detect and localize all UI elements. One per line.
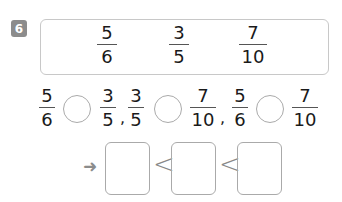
problem-number-badge: 6 bbox=[11, 20, 27, 37]
comparison-left-fraction: 3 5 bbox=[128, 86, 144, 129]
fraction-bar bbox=[169, 44, 189, 45]
denominator: 5 bbox=[130, 110, 141, 129]
given-fraction: 3 5 bbox=[169, 23, 189, 66]
comparison-left-fraction: 5 6 bbox=[39, 86, 55, 129]
numerator: 5 bbox=[234, 86, 245, 105]
numerator: 3 bbox=[173, 23, 184, 42]
given-fraction: 7 10 bbox=[239, 23, 267, 66]
numerator: 5 bbox=[41, 86, 52, 105]
order-answer-box-3[interactable] bbox=[237, 142, 282, 195]
given-fraction: 5 6 bbox=[97, 23, 117, 66]
denominator: 5 bbox=[173, 47, 184, 66]
separator-comma: , bbox=[120, 110, 125, 126]
numerator: 7 bbox=[197, 86, 208, 105]
denominator: 6 bbox=[41, 110, 52, 129]
numerator: 5 bbox=[101, 23, 112, 42]
order-answer-box-2[interactable] bbox=[171, 142, 216, 195]
fraction-bar bbox=[97, 44, 117, 45]
denominator: 10 bbox=[192, 110, 215, 129]
numerator: 7 bbox=[299, 86, 310, 105]
numerator: 7 bbox=[247, 23, 258, 42]
fraction-bar bbox=[239, 44, 267, 45]
fraction-bar bbox=[128, 107, 144, 108]
comparison-answer-circle[interactable] bbox=[63, 95, 91, 123]
separator-comma: , bbox=[220, 110, 225, 126]
denominator: 10 bbox=[242, 47, 265, 66]
denominator: 10 bbox=[294, 110, 317, 129]
numerator: 3 bbox=[130, 86, 141, 105]
denominator: 5 bbox=[102, 110, 113, 129]
comparison-left-fraction: 5 6 bbox=[232, 86, 248, 129]
fraction-bar bbox=[100, 107, 116, 108]
fraction-bar bbox=[292, 107, 318, 108]
fraction-bar bbox=[39, 107, 55, 108]
fraction-bar bbox=[232, 107, 248, 108]
comparison-right-fraction: 3 5 bbox=[100, 86, 116, 129]
denominator: 6 bbox=[234, 110, 245, 129]
numerator: 3 bbox=[102, 86, 113, 105]
comparison-right-fraction: 7 10 bbox=[190, 86, 216, 129]
order-answer-box-1[interactable] bbox=[105, 142, 150, 195]
comparison-answer-circle[interactable] bbox=[154, 95, 182, 123]
comparison-answer-circle[interactable] bbox=[256, 95, 284, 123]
comparison-right-fraction: 7 10 bbox=[292, 86, 318, 129]
right-arrow-icon: ➜ bbox=[83, 158, 97, 175]
denominator: 6 bbox=[101, 47, 112, 66]
fraction-bar bbox=[190, 107, 216, 108]
